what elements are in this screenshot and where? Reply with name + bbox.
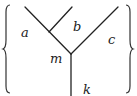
label-c: c: [108, 32, 116, 47]
label-k: k: [83, 82, 91, 96]
left-brace: [3, 5, 10, 93]
label-b: b: [73, 19, 81, 34]
edge-b: [49, 7, 72, 32]
edge-a: [25, 7, 71, 54]
tree-diagram: a b c m k: [0, 0, 137, 96]
right-brace: [126, 5, 133, 93]
label-a: a: [21, 25, 29, 40]
label-m: m: [50, 51, 62, 66]
